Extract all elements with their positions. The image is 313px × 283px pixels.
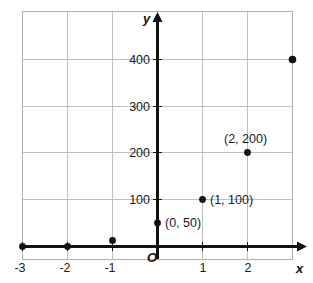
- data-point: [154, 220, 161, 227]
- x-tick-label: 1: [200, 261, 207, 275]
- y-tick-label: 100: [129, 193, 150, 207]
- x-tick-label: 2: [245, 261, 252, 275]
- x-tick-label: -2: [59, 261, 70, 275]
- data-point: [244, 149, 251, 156]
- data-point: [199, 196, 206, 203]
- data-point: [19, 243, 26, 250]
- coordinate-plane-figure: -3 -2 -1 1 2 100 200 300 400 O x y (0, 5…: [0, 0, 313, 283]
- data-point: [109, 237, 116, 244]
- y-tick-label: 400: [129, 53, 150, 67]
- y-tick-label: 300: [129, 100, 150, 114]
- y-axis-label: y: [142, 11, 151, 26]
- y-tick-label: 200: [129, 146, 150, 160]
- data-point: [289, 56, 297, 64]
- point-label-0-50: (0, 50): [165, 216, 201, 230]
- point-label-2-200: (2, 200): [224, 132, 267, 146]
- point-label-1-100: (1, 100): [210, 193, 253, 207]
- x-tick-label: -3: [14, 261, 25, 275]
- x-tick-label: -1: [104, 261, 115, 275]
- data-point: [64, 243, 71, 250]
- origin-label: O: [147, 250, 157, 265]
- x-axis-label: x: [295, 261, 304, 276]
